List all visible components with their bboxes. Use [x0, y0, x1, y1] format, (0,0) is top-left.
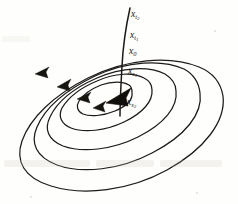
orbit-third: [47, 69, 176, 150]
phase-portrait-svg: [0, 0, 238, 204]
point-label-x-t2: xt2: [131, 10, 140, 20]
point-label-x-s1: xs1: [128, 67, 137, 77]
flow-arrow-group: [35, 67, 131, 112]
label-subsub-x-t1: 1: [136, 37, 139, 42]
orbit-fourth: [60, 74, 152, 131]
point-label-x-s2: xs2: [127, 98, 136, 108]
label-sub-x-0: 0: [133, 50, 136, 57]
orbit-second: [34, 63, 200, 170]
label-subsub-x-s2: 2: [134, 104, 137, 109]
label-subsub-x-s1: 1: [135, 73, 138, 78]
point-label-x-0: x0: [129, 47, 137, 57]
label-subsub-x-t2: 2: [137, 16, 140, 21]
point-label-x-t1: xt1: [130, 31, 139, 41]
flow-arrow-second: [57, 79, 71, 91]
flow-arrow-outer: [35, 67, 49, 78]
figure-root: xt2 xt1 x0 xs1 xs2: [0, 0, 238, 204]
flow-arrow-fourth: [93, 101, 106, 112]
